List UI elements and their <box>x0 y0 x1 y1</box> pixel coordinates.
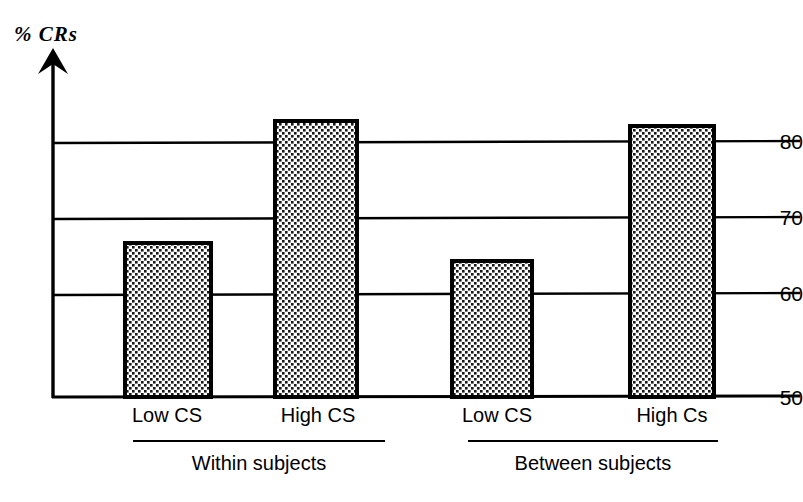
bar-between-low-cs <box>452 261 532 397</box>
group-rule-between-subjects <box>468 440 718 442</box>
bar-within-low-cs <box>125 243 211 397</box>
y-tick-label-60: 60 <box>759 283 803 304</box>
y-tick-label-50: 50 <box>759 387 803 408</box>
bar-between-high-cs <box>630 126 714 397</box>
bar-label-within-high-cs: High CS <box>258 404 378 427</box>
bars-group <box>125 121 714 397</box>
bar-label-within-low-cs: Low CS <box>112 404 222 427</box>
group-label-within-subjects: Within subjects <box>133 452 385 475</box>
y-tick-label-70: 70 <box>759 207 803 228</box>
group-label-between-subjects: Between subjects <box>468 452 718 475</box>
bar-within-high-cs <box>275 121 357 397</box>
group-rule-within-subjects <box>133 440 385 442</box>
y-tick-label-80: 80 <box>759 131 803 152</box>
bar-label-between-high-cs: High Cs <box>612 404 732 427</box>
bar-label-between-low-cs: Low CS <box>442 404 552 427</box>
bar-chart-figure: % CRs 80 70 60 50 <box>0 0 803 502</box>
